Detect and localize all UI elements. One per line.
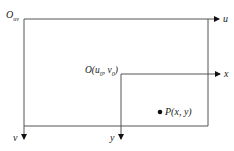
world-origin-label: Ouv — [6, 10, 19, 22]
y-axis-label: y — [110, 133, 114, 143]
image-origin-suffix: ) — [115, 65, 118, 75]
u-axis-label: u — [223, 14, 228, 24]
image-origin-prefix: O(u — [85, 65, 100, 75]
point-p-label: P(x, y) — [165, 107, 192, 117]
v-axis-label: v — [13, 133, 17, 143]
image-origin-mid: , v — [103, 65, 112, 75]
world-origin-subscript: uv — [13, 16, 19, 22]
x-axis-label: x — [224, 69, 228, 79]
image-origin-label: O(u0, v0) — [85, 66, 118, 77]
point-p-dot — [158, 110, 163, 115]
